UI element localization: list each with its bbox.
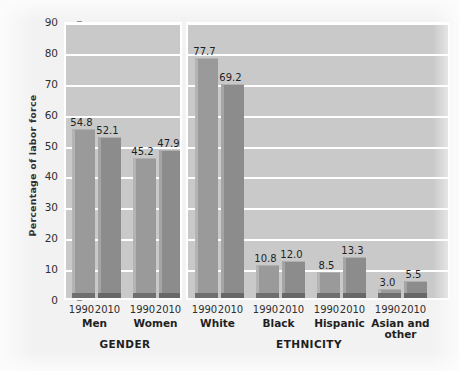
bar-base-shadow	[159, 293, 182, 298]
gridline	[188, 54, 448, 56]
bar	[159, 150, 182, 298]
bar-base-shadow	[133, 293, 156, 298]
bar-value-label: 3.0	[380, 277, 396, 288]
x-axis-year-label: 2010	[95, 304, 120, 315]
bar-face	[195, 58, 218, 298]
y-axis-tick-label: 90	[18, 16, 58, 28]
x-axis-year-label: 2010	[279, 304, 304, 315]
bar-face	[133, 158, 156, 298]
bar-value-label: 69.2	[219, 72, 241, 83]
bar	[195, 58, 218, 298]
y-axis-tick-label: 80	[18, 47, 58, 59]
x-axis-group-label-line: Hispanic	[314, 318, 365, 329]
y-axis-tick-label: 30	[18, 201, 58, 213]
bar-face	[72, 129, 95, 298]
gridline	[66, 85, 180, 87]
bar-base-shadow	[378, 293, 401, 298]
gridline	[66, 23, 180, 25]
x-axis-group-label: Asian andother	[371, 318, 429, 340]
x-axis-year-label: 1990	[253, 304, 278, 315]
bar-value-label: 45.2	[131, 146, 153, 157]
bar	[72, 129, 95, 298]
bar	[221, 84, 244, 298]
x-axis-section-title: GENDER	[100, 338, 151, 350]
bar-face	[343, 257, 366, 298]
bar	[256, 265, 279, 298]
bar-base-shadow	[195, 293, 218, 298]
bar	[317, 272, 340, 298]
x-axis-year-label: 1990	[192, 304, 217, 315]
bar-face	[159, 150, 182, 298]
bar	[98, 137, 121, 298]
bar-chart-figure: Percentage of labor force 01020304050607…	[0, 0, 459, 371]
x-axis-section-title: ETHNICITY	[276, 338, 342, 350]
gridline	[188, 23, 448, 25]
y-axis-tick-label: 0	[18, 294, 58, 306]
bar-value-label: 8.5	[319, 260, 335, 271]
x-axis-group-label: Hispanic	[314, 318, 365, 329]
bar	[282, 261, 305, 298]
y-axis-tick-label: 40	[18, 170, 58, 182]
bar	[133, 158, 156, 298]
bar	[343, 257, 366, 298]
bar-value-label: 77.7	[193, 46, 215, 57]
x-axis-group-label-line: Black	[263, 318, 295, 329]
bar-base-shadow	[343, 293, 366, 298]
x-axis-year-label: 2010	[156, 304, 181, 315]
x-axis-group-label: Women	[134, 318, 178, 329]
y-axis-tick-label: 10	[18, 263, 58, 275]
bar	[378, 289, 401, 298]
bar-value-label: 12.0	[280, 249, 302, 260]
y-axis-ticks: 0102030405060708090	[18, 0, 58, 371]
bar-face	[221, 84, 244, 298]
x-axis-group-label-line: other	[371, 329, 429, 340]
y-axis-tick-label: 60	[18, 109, 58, 121]
bar-base-shadow	[72, 293, 95, 298]
x-axis-group-label: White	[200, 318, 235, 329]
bar-base-shadow	[98, 293, 121, 298]
bar-base-shadow	[221, 293, 244, 298]
y-axis-tick-label: 50	[18, 140, 58, 152]
y-axis-tick-label: 70	[18, 78, 58, 90]
x-axis-group-label: Men	[82, 318, 107, 329]
plot-panel-gender	[64, 22, 182, 300]
bar-value-label: 52.1	[96, 125, 118, 136]
bar-value-label: 10.8	[254, 253, 276, 264]
x-axis-year-label: 2010	[401, 304, 426, 315]
bar-value-label: 47.9	[157, 138, 179, 149]
gridline	[66, 54, 180, 56]
x-axis-group-label-line: Women	[134, 318, 178, 329]
bar-base-shadow	[282, 293, 305, 298]
x-axis-group-label-line: White	[200, 318, 235, 329]
x-axis-year-label: 2010	[340, 304, 365, 315]
y-axis-tick-label: 20	[18, 232, 58, 244]
x-axis-group-label: Black	[263, 318, 295, 329]
bar-base-shadow	[404, 293, 427, 298]
bar-value-label: 5.5	[406, 269, 422, 280]
bar-face	[98, 137, 121, 298]
bar-base-shadow	[256, 293, 279, 298]
x-axis-year-label: 2010	[218, 304, 243, 315]
x-axis-year-label: 1990	[314, 304, 339, 315]
x-axis-year-label: 1990	[69, 304, 94, 315]
x-axis-group-label-line: Men	[82, 318, 107, 329]
bar-base-shadow	[317, 293, 340, 298]
bar	[404, 281, 427, 298]
x-axis-year-label: 1990	[130, 304, 155, 315]
plot-panel-ethnicity	[186, 22, 450, 300]
bar-value-label: 13.3	[341, 245, 363, 256]
x-axis-year-label: 1990	[375, 304, 400, 315]
bar-value-label: 54.8	[70, 117, 92, 128]
